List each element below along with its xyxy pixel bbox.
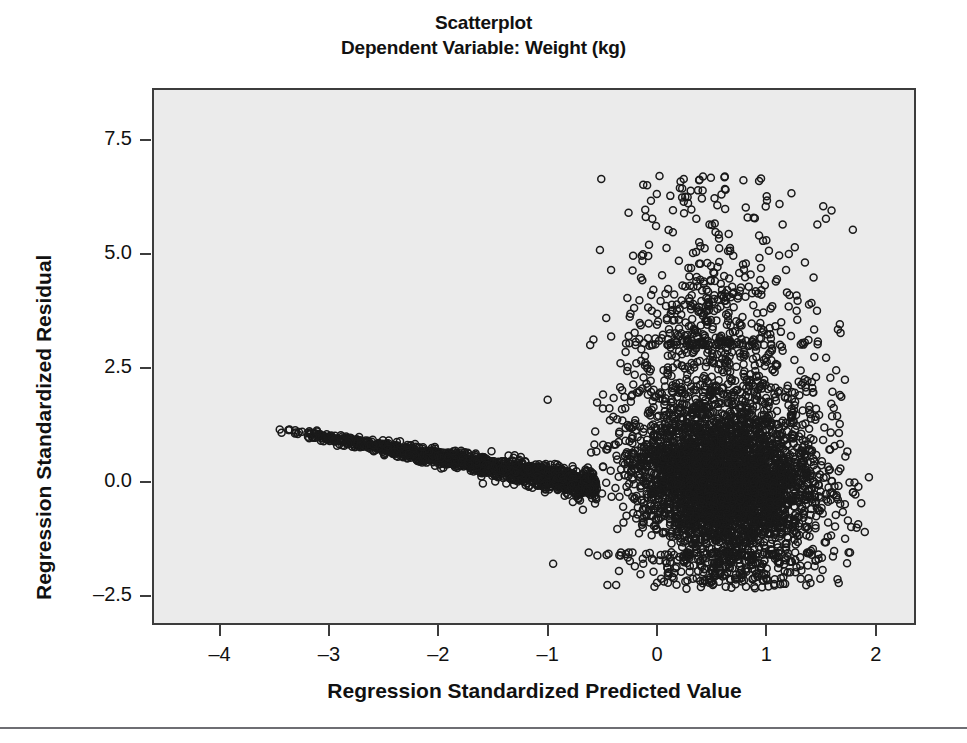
- x-tick-label: –4: [200, 643, 240, 666]
- x-tick-label: 0: [637, 643, 677, 666]
- x-tick-mark: [656, 625, 658, 636]
- scatter-points-layer: [154, 90, 914, 623]
- x-tick-mark: [328, 625, 330, 636]
- x-tick-mark: [875, 625, 877, 636]
- x-tick-label: 1: [746, 643, 786, 666]
- y-tick-mark: [140, 139, 151, 141]
- y-tick-mark: [140, 595, 151, 597]
- y-axis-title: Regression Standardized Residual: [32, 255, 56, 600]
- x-tick-mark: [437, 625, 439, 636]
- x-tick-mark: [765, 625, 767, 636]
- x-tick-mark: [219, 625, 221, 636]
- footer-divider: [0, 727, 967, 729]
- x-tick-label: 2: [856, 643, 896, 666]
- x-tick-label: –2: [418, 643, 458, 666]
- x-axis-title: Regression Standardized Predicted Value: [152, 679, 917, 703]
- y-tick-mark: [140, 481, 151, 483]
- y-tick-label: 5.0: [68, 241, 132, 264]
- x-tick-label: –3: [309, 643, 349, 666]
- y-tick-label: 0.0: [68, 469, 132, 492]
- chart-subtitle: Dependent Variable: Weight (kg): [0, 35, 967, 60]
- chart-title-block: Scatterplot Dependent Variable: Weight (…: [0, 10, 967, 60]
- plot-area: [152, 88, 916, 625]
- y-tick-mark: [140, 367, 151, 369]
- y-tick-mark: [140, 253, 151, 255]
- y-tick-label: 7.5: [68, 127, 132, 150]
- chart-title: Scatterplot: [0, 10, 967, 35]
- x-tick-mark: [547, 625, 549, 636]
- y-tick-label: –2.5: [68, 583, 132, 606]
- x-tick-label: –1: [528, 643, 568, 666]
- scatterplot-figure: Scatterplot Dependent Variable: Weight (…: [0, 0, 967, 743]
- y-tick-label: 2.5: [68, 355, 132, 378]
